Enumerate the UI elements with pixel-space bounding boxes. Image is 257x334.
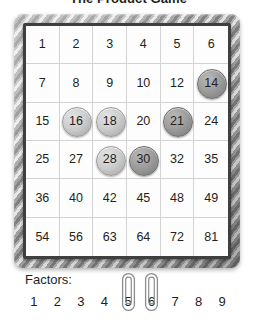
grid-cell-number: 64 bbox=[136, 231, 150, 244]
grid-cell[interactable]: 81 bbox=[194, 218, 228, 256]
grid-cell-number: 32 bbox=[170, 153, 184, 166]
grid-cell[interactable]: 18 bbox=[93, 103, 127, 141]
grid-cell-number: 7 bbox=[39, 77, 46, 90]
grid-cell-number: 28 bbox=[103, 153, 117, 166]
grid-cell[interactable]: 20 bbox=[127, 103, 161, 141]
factor-number[interactable]: 1 bbox=[24, 292, 44, 312]
grid-cell[interactable]: 21 bbox=[161, 103, 195, 141]
grid-cell[interactable]: 32 bbox=[161, 141, 195, 179]
grid-cell-number: 8 bbox=[73, 77, 80, 90]
grid-cell-number: 49 bbox=[204, 192, 218, 205]
grid-cell[interactable]: 6 bbox=[194, 26, 228, 64]
grid-cell[interactable]: 54 bbox=[26, 218, 60, 256]
factor-number[interactable]: 8 bbox=[189, 292, 209, 312]
product-grid: 1234567891012141516182021242527283032353… bbox=[26, 26, 228, 256]
grid-cell-number: 6 bbox=[208, 38, 215, 51]
grid-cell[interactable]: 2 bbox=[60, 26, 94, 64]
grid-cell-number: 12 bbox=[170, 77, 184, 90]
grid-cell[interactable]: 1 bbox=[26, 26, 60, 64]
grid-cell[interactable]: 63 bbox=[93, 218, 127, 256]
paperclip-on-6[interactable] bbox=[144, 272, 159, 312]
grid-border: 1234567891012141516182021242527283032353… bbox=[23, 23, 231, 259]
grid-cell-number: 35 bbox=[204, 153, 218, 166]
grid-cell-number: 4 bbox=[140, 38, 147, 51]
grid-cell[interactable]: 64 bbox=[127, 218, 161, 256]
factor-number[interactable]: 2 bbox=[47, 292, 67, 312]
grid-cell-number: 72 bbox=[170, 231, 184, 244]
grid-cell-number: 36 bbox=[35, 192, 49, 205]
grid-cell-number: 16 bbox=[69, 115, 83, 128]
grid-cell[interactable]: 45 bbox=[127, 179, 161, 217]
grid-cell[interactable]: 72 bbox=[161, 218, 195, 256]
grid-cell-number: 81 bbox=[204, 231, 218, 244]
grid-cell-number: 3 bbox=[106, 38, 113, 51]
grid-cell-number: 48 bbox=[170, 192, 184, 205]
grid-cell-number: 27 bbox=[69, 153, 83, 166]
grid-cell[interactable]: 7 bbox=[26, 64, 60, 102]
grid-cell[interactable]: 14 bbox=[194, 64, 228, 102]
grid-cell-number: 2 bbox=[73, 38, 80, 51]
grid-cell[interactable]: 49 bbox=[194, 179, 228, 217]
grid-cell-number: 9 bbox=[106, 77, 113, 90]
grid-cell-number: 40 bbox=[69, 192, 83, 205]
grid-cell[interactable]: 28 bbox=[93, 141, 127, 179]
grid-cell[interactable]: 12 bbox=[161, 64, 195, 102]
grid-cell[interactable]: 42 bbox=[93, 179, 127, 217]
grid-cell[interactable]: 24 bbox=[194, 103, 228, 141]
grid-cell[interactable]: 16 bbox=[60, 103, 94, 141]
grid-cell[interactable]: 10 bbox=[127, 64, 161, 102]
grid-cell[interactable]: 27 bbox=[60, 141, 94, 179]
grid-cell[interactable]: 40 bbox=[60, 179, 94, 217]
grid-cell-number: 42 bbox=[103, 192, 117, 205]
grid-cell-number: 1 bbox=[39, 38, 46, 51]
grid-cell-number: 14 bbox=[204, 77, 218, 90]
grid-cell-number: 24 bbox=[204, 115, 218, 128]
grid-cell-number: 21 bbox=[170, 115, 184, 128]
grid-cell-number: 30 bbox=[136, 153, 150, 166]
grid-cell[interactable]: 4 bbox=[127, 26, 161, 64]
grid-cell[interactable]: 36 bbox=[26, 179, 60, 217]
factor-number[interactable]: 7 bbox=[165, 292, 185, 312]
grid-cell-number: 15 bbox=[35, 115, 49, 128]
grid-cell-number: 56 bbox=[69, 231, 83, 244]
grid-cell-number: 5 bbox=[174, 38, 181, 51]
paperclip-on-5[interactable] bbox=[121, 272, 136, 312]
grid-cell-number: 54 bbox=[35, 231, 49, 244]
page-title: The Product Game bbox=[0, 0, 257, 6]
factor-number[interactable]: 3 bbox=[71, 292, 91, 312]
factors-strip: 123456789 bbox=[22, 292, 234, 312]
grid-cell-number: 10 bbox=[136, 77, 150, 90]
factor-number[interactable]: 4 bbox=[94, 292, 114, 312]
grid-cell[interactable]: 56 bbox=[60, 218, 94, 256]
factor-number[interactable]: 9 bbox=[212, 292, 232, 312]
grid-cell[interactable]: 9 bbox=[93, 64, 127, 102]
grid-cell-number: 20 bbox=[136, 115, 150, 128]
grid-cell-number: 25 bbox=[35, 153, 49, 166]
game-board-frame: 1234567891012141516182021242527283032353… bbox=[14, 14, 240, 268]
grid-cell[interactable]: 35 bbox=[194, 141, 228, 179]
grid-cell[interactable]: 48 bbox=[161, 179, 195, 217]
grid-cell[interactable]: 15 bbox=[26, 103, 60, 141]
grid-cell[interactable]: 5 bbox=[161, 26, 195, 64]
grid-cell[interactable]: 30 bbox=[127, 141, 161, 179]
grid-cell-number: 18 bbox=[103, 115, 117, 128]
grid-cell[interactable]: 25 bbox=[26, 141, 60, 179]
grid-cell-number: 45 bbox=[136, 192, 150, 205]
grid-cell[interactable]: 3 bbox=[93, 26, 127, 64]
factors-label: Factors: bbox=[25, 272, 72, 287]
grid-cell-number: 63 bbox=[103, 231, 117, 244]
grid-cell[interactable]: 8 bbox=[60, 64, 94, 102]
